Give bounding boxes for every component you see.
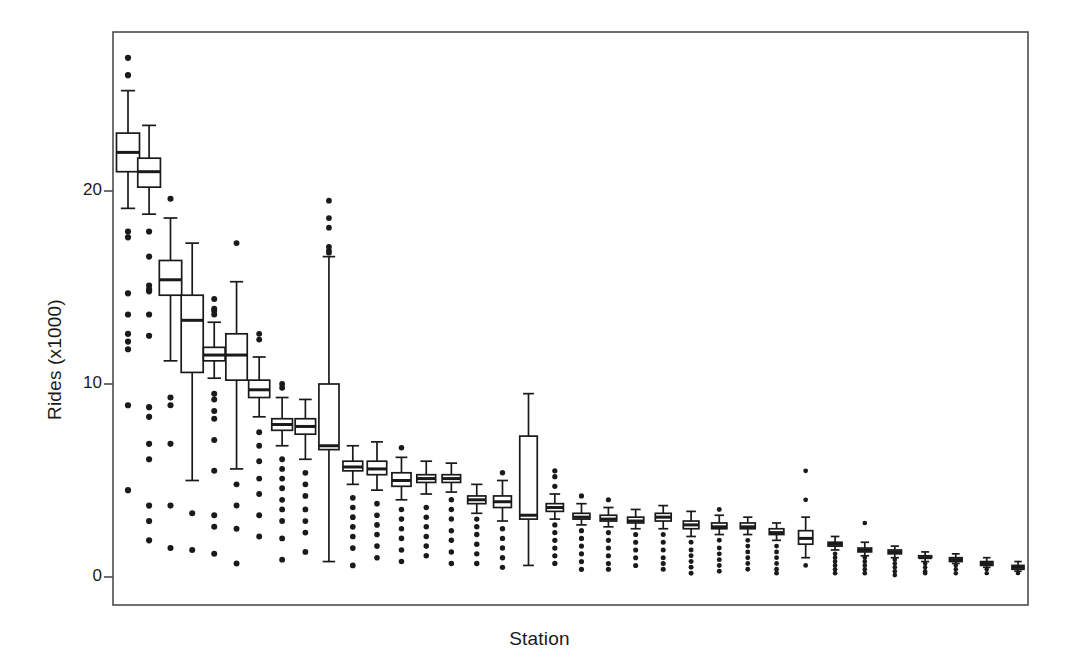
outlier-point xyxy=(256,476,262,482)
outlier-point xyxy=(146,441,152,447)
outlier-point xyxy=(579,493,584,498)
outlier-point xyxy=(374,543,380,549)
outlier-point xyxy=(985,571,989,575)
outlier-point xyxy=(211,391,217,397)
outlier-point xyxy=(661,555,666,560)
box-S33 xyxy=(949,554,962,576)
outlier-point xyxy=(125,487,131,493)
outlier-point xyxy=(399,547,405,553)
box-S2 xyxy=(138,125,161,543)
outlier-point xyxy=(803,563,808,568)
x-axis-title: Station xyxy=(0,628,1079,650)
box-S18 xyxy=(520,394,538,566)
outlier-point xyxy=(552,522,557,527)
plot-border xyxy=(113,32,1028,605)
outlier-point xyxy=(167,545,173,551)
y-tick-label-20: 20 xyxy=(52,180,102,200)
outlier-point xyxy=(774,544,779,549)
outlier-point xyxy=(449,549,454,554)
outlier-point xyxy=(606,530,611,535)
outlier-point xyxy=(774,571,779,576)
outlier-point xyxy=(399,445,405,451)
boxplot-canvas xyxy=(0,0,1079,671)
outlier-point xyxy=(399,516,405,522)
box-S4 xyxy=(181,243,203,553)
box-S20 xyxy=(573,493,590,572)
box-S27 xyxy=(769,523,784,576)
outlier-point xyxy=(146,333,152,339)
outlier-point xyxy=(374,555,380,561)
outlier-point xyxy=(424,505,430,511)
outlier-point xyxy=(374,522,380,528)
outlier-point xyxy=(125,331,131,337)
y-axis-title: Rides (x1000) xyxy=(44,299,66,420)
outlier-point xyxy=(449,538,454,543)
box-S7 xyxy=(249,331,270,540)
box-S26 xyxy=(740,517,755,572)
outlier-point xyxy=(146,311,152,317)
outlier-point xyxy=(167,196,173,202)
outlier-point xyxy=(606,545,611,550)
outlier-point xyxy=(399,507,405,513)
outlier-point xyxy=(774,561,779,566)
outlier-point xyxy=(474,551,479,556)
outlier-point xyxy=(125,55,131,61)
box-S30 xyxy=(858,521,872,576)
outlier-point xyxy=(923,571,928,576)
outlier-point xyxy=(256,331,262,337)
outlier-point xyxy=(256,458,262,464)
outlier-point xyxy=(424,543,430,549)
outlier-point xyxy=(279,456,285,462)
outlier-point xyxy=(552,553,557,558)
outlier-point xyxy=(449,497,454,502)
outlier-point xyxy=(833,571,838,576)
outlier-point xyxy=(803,497,808,502)
outlier-point xyxy=(500,536,505,541)
box-S32 xyxy=(919,552,932,576)
box-S24 xyxy=(683,511,699,575)
outlier-point xyxy=(717,551,722,556)
outlier-point xyxy=(125,311,131,317)
outlier-point xyxy=(745,544,750,549)
outlier-point xyxy=(125,346,131,352)
outlier-point xyxy=(689,571,694,576)
outlier-point xyxy=(350,534,356,540)
box-S13 xyxy=(392,445,411,564)
box-body xyxy=(520,436,538,519)
outlier-point xyxy=(302,493,308,499)
outlier-point xyxy=(302,530,308,536)
outlier-point xyxy=(350,495,356,501)
outlier-point xyxy=(552,484,557,489)
box-S31 xyxy=(888,546,901,577)
outlier-point xyxy=(774,549,779,554)
boxplot-series xyxy=(117,55,1025,578)
outlier-point xyxy=(211,524,217,530)
outlier-point xyxy=(424,524,430,530)
outlier-point xyxy=(717,569,722,574)
outlier-point xyxy=(350,545,356,551)
outlier-point xyxy=(167,394,173,400)
outlier-point xyxy=(374,512,380,518)
outlier-point xyxy=(862,571,867,576)
outlier-point xyxy=(689,547,694,552)
outlier-point xyxy=(954,563,959,568)
outlier-point xyxy=(633,547,638,552)
outlier-point xyxy=(689,559,694,564)
outlier-point xyxy=(606,497,611,502)
outlier-point xyxy=(279,476,285,482)
outlier-point xyxy=(256,429,262,435)
outlier-point xyxy=(350,514,356,520)
box-body xyxy=(319,384,339,450)
outlier-point xyxy=(279,466,285,472)
outlier-point xyxy=(234,526,240,532)
outlier-point xyxy=(146,404,152,410)
outlier-point xyxy=(399,526,405,532)
outlier-point xyxy=(279,557,285,563)
outlier-point xyxy=(211,296,217,302)
outlier-point xyxy=(234,481,240,487)
box-S35 xyxy=(1012,562,1024,576)
box-S22 xyxy=(628,509,644,568)
box-S3 xyxy=(159,196,181,551)
outlier-point xyxy=(449,528,454,533)
outlier-point xyxy=(661,567,666,572)
